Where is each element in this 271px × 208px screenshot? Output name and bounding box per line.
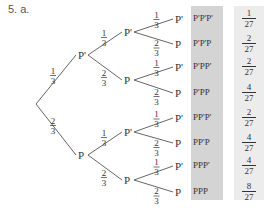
- probability-denominator: 27: [234, 143, 264, 153]
- probability-denominator: 27: [234, 166, 264, 176]
- node-level2: P: [124, 74, 130, 86]
- branch-level1: [36, 104, 76, 155]
- node-level3: P: [175, 186, 181, 198]
- probability-numerator: 4: [234, 82, 264, 92]
- outcome-label: PPP: [193, 186, 208, 196]
- branch-prob-level3-denominator: 3: [154, 97, 159, 107]
- outcome-probability: 127: [234, 8, 264, 29]
- branch-prob-level3-numerator: 1: [154, 10, 159, 20]
- branch-prob-level2-denominator: 3: [102, 78, 107, 88]
- node-level3: P': [175, 61, 183, 73]
- branch-prob-level2-numerator: 1: [102, 28, 107, 38]
- branch-prob-level3-denominator: 3: [154, 119, 159, 129]
- probability-numerator: 4: [234, 132, 264, 142]
- node-level1: P': [78, 49, 86, 61]
- branch-prob-level2-denominator: 3: [102, 38, 107, 48]
- outcome-probability: 227: [234, 107, 264, 128]
- node-level3: P: [175, 87, 181, 99]
- outcome-label: PPP': [193, 160, 210, 170]
- node-level2: P: [124, 174, 130, 186]
- branch-prob-level1-denominator: 3: [51, 126, 56, 136]
- branch-prob-level2-numerator: 2: [102, 168, 107, 178]
- probability-numerator: 2: [234, 56, 264, 66]
- branch-prob-level2-denominator: 3: [102, 178, 107, 188]
- outcome-probability: 427: [234, 155, 264, 176]
- branch-prob-level3-denominator: 3: [154, 20, 159, 30]
- node-level2: P': [124, 26, 132, 38]
- probability-numerator: 2: [234, 33, 264, 43]
- branch-prob-level3-denominator: 3: [154, 167, 159, 177]
- branch-prob-level3-numerator: 2: [154, 38, 159, 48]
- node-level2: P': [124, 126, 132, 138]
- probability-denominator: 27: [234, 192, 264, 202]
- outcome-probability: 227: [234, 33, 264, 54]
- branch-prob-level3-numerator: 2: [154, 138, 159, 148]
- probability-numerator: 1: [234, 8, 264, 18]
- branch-prob-level3-denominator: 3: [154, 196, 159, 206]
- branch-prob-level3-numerator: 2: [154, 87, 159, 97]
- branch-prob-level1-numerator: 1: [51, 66, 56, 76]
- outcome-label: PP'P': [193, 112, 211, 122]
- probability-numerator: 2: [234, 107, 264, 117]
- branch-prob-level3-numerator: 1: [154, 58, 159, 68]
- probability-denominator: 27: [234, 19, 264, 29]
- probability-denominator: 27: [234, 67, 264, 77]
- probability-numerator: 4: [234, 155, 264, 165]
- outcome-label: P'P'P: [193, 38, 211, 48]
- outcome-label: P'P'P': [193, 13, 213, 23]
- probability-denominator: 27: [234, 44, 264, 54]
- outcome-label: P'PP': [193, 61, 211, 71]
- branch-prob-level1-denominator: 3: [51, 76, 56, 86]
- node-level3: P': [175, 112, 183, 124]
- node-level3: P: [175, 38, 181, 50]
- branch-prob-level3-denominator: 3: [154, 68, 159, 78]
- branch-prob-level1-numerator: 2: [51, 116, 56, 126]
- outcome-probability: 427: [234, 132, 264, 153]
- branch-prob-level3-numerator: 1: [154, 109, 159, 119]
- branch-prob-level3-numerator: 1: [154, 157, 159, 167]
- branch-prob-level2-numerator: 1: [102, 128, 107, 138]
- branch-prob-level3-denominator: 3: [154, 148, 159, 158]
- outcome-label: PP'P: [193, 137, 210, 147]
- node-level3: P: [175, 137, 181, 149]
- outcome-probability: 227: [234, 56, 264, 77]
- branch-level1: [36, 55, 76, 104]
- branch-prob-level2-numerator: 2: [102, 68, 107, 78]
- node-level1: P: [78, 149, 84, 161]
- outcome-probability: 427: [234, 82, 264, 103]
- probability-numerator: 8: [234, 181, 264, 191]
- branch-prob-level2-denominator: 3: [102, 138, 107, 148]
- probability-denominator: 27: [234, 118, 264, 128]
- node-level3: P': [175, 13, 183, 25]
- probability-tree: P'13P23P'13P23P'13P23P'13P23P'13P23P'13P…: [0, 0, 271, 208]
- branch-prob-level3-denominator: 3: [154, 48, 159, 58]
- probability-denominator: 27: [234, 93, 264, 103]
- branch-prob-level3-numerator: 2: [154, 186, 159, 196]
- outcome-label: P'PP: [193, 87, 210, 97]
- node-level3: P': [175, 160, 183, 172]
- outcome-probability: 827: [234, 181, 264, 202]
